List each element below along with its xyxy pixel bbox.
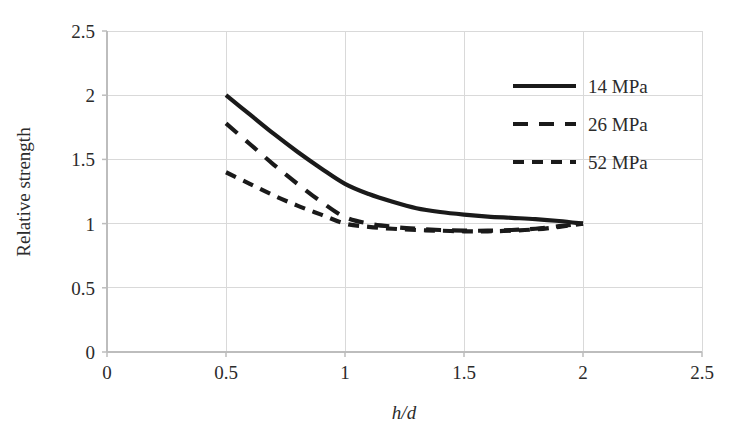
- relative-strength-line-chart: 00.511.522.5 00.511.522.5 h/d Relative s…: [0, 0, 751, 434]
- y-tick-labels: 00.511.522.5: [71, 21, 95, 363]
- x-tick-label: 1.5: [452, 362, 476, 383]
- data-series: [226, 95, 583, 231]
- chart-figure: 00.511.522.5 00.511.522.5 h/d Relative s…: [0, 0, 751, 434]
- legend-label-52-mpa: 52 MPa: [588, 152, 648, 173]
- x-tick-label: 2: [578, 362, 588, 383]
- x-axis-title: h/d: [392, 402, 417, 423]
- x-tick-label: 1: [340, 362, 350, 383]
- y-axis-title: Relative strength: [13, 127, 34, 257]
- y-tick-label: 2.5: [71, 21, 95, 42]
- legend: 14 MPa26 MPa52 MPa: [513, 76, 648, 173]
- x-tick-label: 0.5: [214, 362, 238, 383]
- y-tick-label: 1: [86, 214, 96, 235]
- y-tick-label: 0: [86, 342, 96, 363]
- series-line-52-mpa: [226, 172, 583, 231]
- x-tick-label: 0: [102, 362, 112, 383]
- legend-label-26-mpa: 26 MPa: [588, 114, 648, 135]
- x-tick-labels: 00.511.522.5: [102, 362, 714, 383]
- y-tick-label: 1.5: [71, 149, 95, 170]
- y-tick-label: 0.5: [71, 278, 95, 299]
- y-tick-label: 2: [86, 85, 96, 106]
- legend-label-14-mpa: 14 MPa: [588, 76, 648, 97]
- x-tick-label: 2.5: [690, 362, 714, 383]
